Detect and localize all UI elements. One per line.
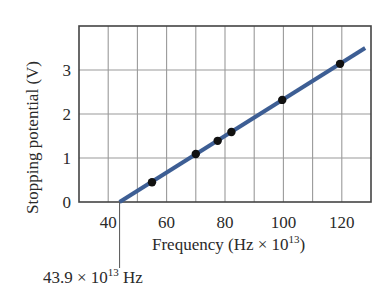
y-tick-label: 0 — [63, 193, 72, 212]
x-tick-label: 100 — [271, 213, 297, 232]
x-tick-label: 60 — [158, 213, 175, 232]
data-point — [227, 128, 235, 136]
data-point — [336, 60, 344, 68]
x-tick-label: 80 — [217, 213, 234, 232]
x-tick-label: 40 — [100, 213, 117, 232]
y-tick-label: 3 — [63, 61, 72, 80]
grid-lines — [79, 26, 371, 202]
fit-line — [120, 48, 366, 202]
x-tick-label: 120 — [329, 213, 355, 232]
y-tick-label: 1 — [63, 149, 72, 168]
y-tick-labels: 0123 — [63, 61, 72, 212]
data-point — [214, 137, 222, 145]
x-tick-labels: 406080100120 — [100, 213, 355, 232]
threshold-frequency-annotation: 43.9 × 1013 Hz — [43, 266, 143, 287]
data-point — [148, 178, 156, 186]
x-axis-label: Frequency (Hz × 1013) — [152, 233, 305, 254]
stopping-potential-chart: 406080100120 0123 43.9 × 1013 Hz Frequen… — [0, 0, 390, 306]
y-tick-label: 2 — [63, 105, 72, 124]
y-axis-label: Stopping potential (V) — [23, 61, 42, 214]
data-point — [192, 150, 200, 158]
data-point — [278, 96, 286, 104]
